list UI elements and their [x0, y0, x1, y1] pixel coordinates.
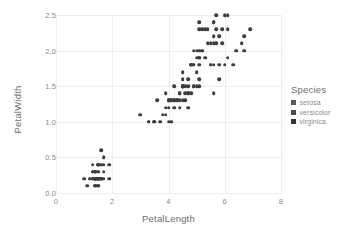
- data-point: [226, 56, 230, 60]
- gridline-vertical: [225, 15, 226, 193]
- data-point: [139, 113, 143, 117]
- data-point: [108, 177, 112, 181]
- legend: Species setosaversicolorvirginica: [291, 84, 344, 128]
- data-point: [200, 49, 204, 53]
- y-tick-label: 2.0: [45, 46, 56, 55]
- data-point: [102, 170, 106, 174]
- x-tick-label: 6: [223, 197, 227, 206]
- data-point: [102, 156, 106, 160]
- y-axis-title: PetalWidth: [12, 60, 23, 160]
- data-point: [189, 92, 193, 96]
- data-point: [94, 170, 98, 174]
- x-axis-title: PetalLength: [56, 213, 281, 224]
- data-point: [215, 13, 219, 17]
- data-point: [189, 63, 193, 67]
- data-point: [234, 49, 238, 53]
- data-point: [186, 84, 190, 88]
- legend-item-setosa[interactable]: setosa: [291, 99, 344, 106]
- data-point: [164, 92, 168, 96]
- data-point: [85, 184, 89, 188]
- data-point: [212, 42, 216, 46]
- data-point: [248, 27, 252, 31]
- legend-item-versicolor[interactable]: versicolor: [291, 109, 344, 116]
- plot-area: [56, 15, 281, 193]
- data-point: [217, 35, 221, 39]
- y-tick-label: 0.5: [45, 153, 56, 162]
- scatter-chart: 0.00.51.01.52.02.5 02468 PetalLength Pet…: [0, 0, 344, 238]
- data-point: [231, 63, 235, 67]
- data-point: [212, 20, 216, 24]
- data-point: [184, 99, 188, 103]
- data-point: [192, 49, 196, 53]
- data-point: [153, 120, 157, 124]
- x-tick-label: 4: [166, 197, 170, 206]
- data-point: [198, 63, 202, 67]
- data-point: [220, 27, 224, 31]
- data-point: [96, 163, 100, 167]
- data-point: [147, 120, 151, 124]
- data-point: [172, 106, 176, 110]
- legend-swatch-icon: [291, 110, 296, 115]
- data-point: [240, 42, 244, 46]
- data-point: [243, 35, 247, 39]
- legend-item-label: setosa: [300, 99, 321, 106]
- data-point: [206, 42, 210, 46]
- data-point: [161, 113, 165, 117]
- data-point: [175, 99, 179, 103]
- gridline-vertical: [169, 15, 170, 193]
- data-point: [212, 92, 216, 96]
- data-point: [203, 56, 207, 60]
- data-point: [217, 77, 221, 81]
- data-point: [195, 56, 199, 60]
- data-point: [158, 120, 162, 124]
- data-point: [155, 99, 159, 103]
- y-tick-label: 1.0: [45, 117, 56, 126]
- data-point: [170, 99, 174, 103]
- data-point: [108, 163, 112, 167]
- legend-items: setosaversicolorvirginica: [291, 99, 344, 125]
- data-point: [170, 120, 174, 124]
- data-point: [243, 49, 247, 53]
- legend-item-label: versicolor: [300, 109, 331, 116]
- data-point: [215, 27, 219, 31]
- data-point: [167, 106, 171, 110]
- data-point: [226, 13, 230, 17]
- legend-item-label: virginica: [300, 118, 327, 125]
- legend-title: Species: [291, 84, 344, 95]
- gridline-vertical: [281, 15, 282, 193]
- legend-item-virginica[interactable]: virginica: [291, 118, 344, 125]
- data-point: [198, 84, 202, 88]
- data-point: [172, 84, 176, 88]
- data-point: [184, 92, 188, 96]
- data-point: [94, 184, 98, 188]
- data-point: [91, 163, 95, 167]
- data-point: [181, 70, 185, 74]
- data-point: [200, 27, 204, 31]
- data-point: [195, 70, 199, 74]
- gridline-vertical: [112, 15, 113, 193]
- data-point: [223, 63, 227, 67]
- data-point: [186, 77, 190, 81]
- y-tick-label: 2.5: [45, 11, 56, 20]
- data-point: [206, 27, 210, 31]
- data-point: [94, 177, 98, 181]
- data-point: [181, 77, 185, 81]
- data-point: [198, 77, 202, 81]
- data-point: [220, 42, 224, 46]
- data-point: [217, 63, 221, 67]
- x-tick-label: 2: [110, 197, 114, 206]
- data-point: [186, 106, 190, 110]
- x-tick-label: 0: [54, 197, 58, 206]
- data-point: [178, 106, 182, 110]
- gridline-vertical: [56, 15, 57, 193]
- data-point: [209, 63, 213, 67]
- data-point: [198, 20, 202, 24]
- data-point: [82, 177, 86, 181]
- data-point: [178, 92, 182, 96]
- gridline-horizontal: [56, 193, 281, 194]
- y-tick-label: 1.5: [45, 82, 56, 91]
- data-point: [212, 35, 216, 39]
- data-point: [226, 27, 230, 31]
- x-tick-label: 8: [279, 197, 283, 206]
- legend-swatch-icon: [291, 119, 296, 124]
